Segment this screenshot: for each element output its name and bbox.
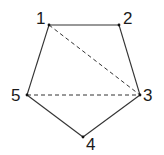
vertex-point-5 [26, 94, 29, 97]
vertex-label-5: 5 [11, 86, 20, 105]
vertex-label-3: 3 [143, 86, 152, 105]
vertex-label-4: 4 [86, 135, 95, 154]
pentagon-diagram: 1 2 3 4 5 [0, 0, 164, 155]
edge-5-1 [27, 25, 49, 95]
vertex-point-4 [82, 136, 85, 139]
vertex-labels: 1 2 3 4 5 [11, 9, 152, 154]
vertex-label-2: 2 [123, 9, 132, 28]
edge-3-4 [83, 95, 140, 137]
edge-4-5 [27, 95, 83, 137]
pentagon-edges [27, 25, 140, 137]
diagonal-1-3 [49, 25, 140, 95]
edge-2-3 [119, 25, 140, 95]
vertex-point-3 [139, 94, 142, 97]
vertex-point-1 [48, 24, 51, 27]
vertex-point-2 [118, 24, 121, 27]
diagonals [27, 25, 140, 95]
vertex-label-1: 1 [36, 9, 45, 28]
